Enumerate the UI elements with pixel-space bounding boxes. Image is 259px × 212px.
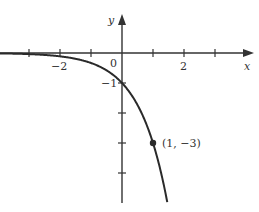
highlighted-point — [150, 140, 156, 146]
point-label: (1, −3) — [162, 137, 201, 150]
y-axis-arrow-icon — [118, 14, 126, 25]
y-tick-label-neg1: −1 — [101, 77, 117, 90]
function-curve — [0, 53, 167, 202]
x-axis — [0, 49, 254, 57]
x-axis-label: x — [244, 60, 251, 73]
origin-label: 0 — [110, 57, 117, 70]
x-axis-arrow-icon — [243, 49, 254, 57]
x-tick-label-neg2: −2 — [51, 60, 67, 73]
x-tick-label-2: 2 — [180, 60, 187, 73]
function-graph: x y 0 −2 2 −1 (1, −3) — [0, 0, 259, 212]
y-axis-label: y — [107, 14, 115, 27]
y-axis — [118, 14, 126, 203]
